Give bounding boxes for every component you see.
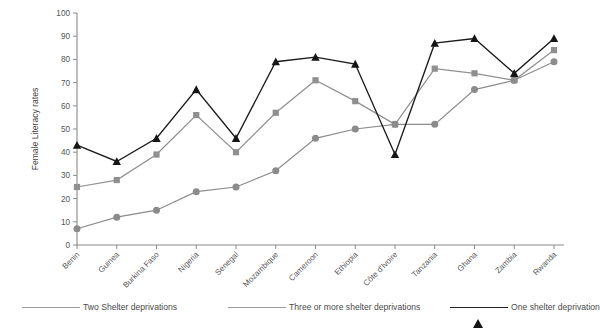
legend-label: One shelter deprivation [511, 302, 600, 312]
x-tick-label: Côte d'Ivoire [361, 250, 399, 288]
data-point [272, 167, 279, 174]
chart-series-group [73, 34, 558, 232]
line-chart-svg: 0102030405060708090100 Female Literacy r… [0, 0, 591, 292]
data-point [312, 135, 319, 142]
x-tick-label: Mozambique [241, 250, 280, 289]
y-axis-title-text: Female Literacy rates [30, 88, 40, 171]
x-tick-label: Cameroon [287, 250, 320, 283]
data-point [192, 85, 200, 93]
data-point [233, 149, 239, 155]
data-point [74, 225, 81, 232]
x-tick-label: Guinea [97, 250, 122, 275]
data-point [392, 121, 399, 128]
data-point [431, 121, 438, 128]
square-marker [22, 301, 80, 313]
data-point [114, 177, 120, 183]
data-point [352, 98, 358, 104]
y-tick-label: 80 [61, 55, 71, 64]
x-axis-category-labels: BeninGuineaBurkina FasoNigeriaSenegalMoz… [61, 250, 559, 290]
data-point [273, 110, 279, 116]
legend-item-three-or-more-shelter-deprivations[interactable]: Three or more shelter deprivations [228, 297, 420, 317]
data-point [511, 77, 518, 84]
series-two-shelter-deprivations [74, 47, 557, 190]
data-point [471, 70, 477, 76]
chart-legend: Two Shelter deprivations Three or more s… [0, 292, 591, 328]
series-one-shelter-deprivation [73, 34, 558, 165]
x-tick-label: Zambia [493, 250, 519, 276]
legend-label: Two Shelter deprivations [83, 302, 177, 312]
data-point [74, 184, 80, 190]
data-point [153, 207, 160, 214]
data-point [193, 112, 199, 118]
y-tick-label: 10 [61, 218, 71, 227]
circle-marker [228, 301, 286, 313]
data-point [193, 188, 200, 195]
triangle-marker [450, 301, 508, 313]
data-point [551, 47, 557, 53]
data-point [73, 141, 81, 149]
data-point [432, 66, 438, 72]
y-axis-title: Female Literacy rates [30, 88, 40, 171]
chart-plot-area: 0102030405060708090100 Female Literacy r… [0, 0, 591, 292]
y-tick-label: 30 [61, 171, 71, 180]
legend-item-two-shelter-deprivations[interactable]: Two Shelter deprivations [22, 297, 177, 317]
x-tick-label: Benin [61, 250, 82, 271]
y-tick-label: 50 [61, 125, 71, 134]
data-point [550, 34, 558, 42]
legend-label: Three or more shelter deprivations [289, 302, 420, 312]
y-tick-label: 90 [61, 32, 71, 41]
data-point [233, 184, 240, 191]
x-tick-label: Ethiopia [333, 250, 360, 277]
y-tick-label: 100 [56, 9, 70, 18]
x-tick-label: Senegal [213, 250, 240, 277]
legend-item-one-shelter-deprivation[interactable]: One shelter deprivation [450, 297, 600, 317]
x-tick-label: Ghana [456, 250, 480, 274]
y-tick-label: 20 [61, 195, 71, 204]
data-point [391, 150, 399, 158]
data-point [352, 126, 359, 133]
x-tick-label: Tanzania [410, 250, 439, 279]
data-point [551, 58, 558, 65]
x-axis [77, 245, 564, 249]
data-point [153, 151, 159, 157]
x-tick-label: Nigeria [176, 250, 201, 275]
y-tick-label: 0 [65, 241, 70, 250]
data-point [471, 86, 478, 93]
y-tick-label: 70 [61, 79, 71, 88]
data-point [312, 77, 318, 83]
series-three-or-more-shelter-deprivations [74, 58, 558, 232]
data-point [113, 214, 120, 221]
x-tick-label: Burkina Faso [121, 250, 161, 290]
x-tick-label: Rwanda [531, 250, 559, 278]
y-tick-label: 40 [61, 148, 71, 157]
y-axis: 0102030405060708090100 [56, 9, 77, 250]
data-point [113, 157, 121, 165]
y-tick-label: 60 [61, 102, 71, 111]
